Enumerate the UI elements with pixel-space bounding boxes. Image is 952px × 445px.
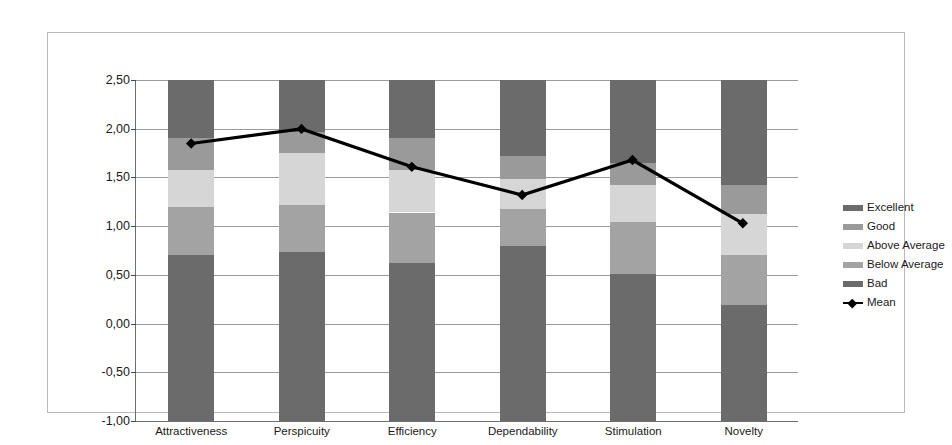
bar-segment-below-average[interactable] <box>389 213 435 264</box>
legend-item-label: Good <box>867 221 895 233</box>
legend-item-excellent[interactable]: Excellent <box>843 199 951 217</box>
legend-swatch-icon <box>843 262 863 268</box>
bar-segment-good[interactable] <box>168 138 214 169</box>
bar-segment-bad[interactable] <box>500 246 546 421</box>
x-axis-tick-label: Dependability <box>468 426 579 438</box>
bar-segment-excellent[interactable] <box>610 80 656 163</box>
bar-column[interactable] <box>468 80 579 421</box>
legend-swatch-icon <box>843 243 863 249</box>
bar-column[interactable] <box>578 80 689 421</box>
bar-segment-below-average[interactable] <box>500 209 546 246</box>
stacked-bar[interactable] <box>500 80 546 421</box>
y-axis-tick-label: 2,00 <box>106 123 130 136</box>
stacked-bar[interactable] <box>279 80 325 421</box>
chart-legend: ExcellentGoodAbove AverageBelow AverageB… <box>843 199 951 313</box>
plot-area: AttractivenessPerspicuityEfficiencyDepen… <box>135 80 798 421</box>
bar-segment-excellent[interactable] <box>279 80 325 132</box>
x-axis-tick-label: Efficiency <box>357 426 468 438</box>
bar-segment-below-average[interactable] <box>279 205 325 253</box>
stacked-bar[interactable] <box>721 80 767 421</box>
stacked-bar[interactable] <box>389 80 435 421</box>
x-axis-tick-label: Attractiveness <box>136 426 247 438</box>
legend-item-label: Mean <box>867 297 896 309</box>
y-axis-tick-label: 1,50 <box>106 171 130 184</box>
legend-item-mean[interactable]: Mean <box>843 294 951 312</box>
bar-segment-above-average[interactable] <box>168 170 214 207</box>
legend-swatch-icon <box>843 281 863 287</box>
legend-swatch-icon <box>843 205 863 211</box>
x-axis-tick-label: Stimulation <box>578 426 689 438</box>
x-axis-tick-label: Perspicuity <box>247 426 358 438</box>
bar-segment-above-average[interactable] <box>500 179 546 208</box>
chart-frame: 2,502,001,501,000,500,00-0,50-1,00 Attra… <box>47 32 905 413</box>
y-axis-tick-label: 2,50 <box>106 74 130 87</box>
bar-segment-excellent[interactable] <box>721 80 767 185</box>
bar-segment-excellent[interactable] <box>500 80 546 156</box>
bar-segment-excellent[interactable] <box>389 80 435 138</box>
legend-item-above-average[interactable]: Above Average <box>843 237 951 255</box>
bar-segment-above-average[interactable] <box>721 214 767 255</box>
y-axis-tick-label: 1,00 <box>106 220 130 233</box>
legend-item-bad[interactable]: Bad <box>843 275 951 293</box>
bar-column[interactable] <box>136 80 247 421</box>
bar-column[interactable] <box>357 80 468 421</box>
bar-column[interactable] <box>689 80 800 421</box>
y-axis-labels: 2,502,001,501,000,500,00-0,50-1,00 <box>88 80 130 421</box>
y-axis-tick-label: -0,50 <box>102 366 131 379</box>
bar-segment-good[interactable] <box>721 185 767 214</box>
bar-segment-good[interactable] <box>389 138 435 169</box>
y-axis-tick-label: -1,00 <box>102 415 131 428</box>
bar-segment-bad[interactable] <box>279 252 325 421</box>
y-axis-tick-label: 0,00 <box>106 318 130 331</box>
bar-segment-below-average[interactable] <box>168 207 214 256</box>
legend-item-below-average[interactable]: Below Average <box>843 256 951 274</box>
legend-item-label: Below Average <box>867 259 944 271</box>
bar-segment-bad[interactable] <box>168 255 214 421</box>
gridline <box>136 421 798 422</box>
bar-segment-excellent[interactable] <box>168 80 214 138</box>
bar-segment-good[interactable] <box>610 163 656 185</box>
bar-segment-bad[interactable] <box>389 263 435 421</box>
legend-swatch-icon <box>843 224 863 230</box>
bar-segment-below-average[interactable] <box>721 255 767 305</box>
bar-segment-above-average[interactable] <box>389 170 435 213</box>
x-axis-tick-label: Novelty <box>689 426 800 438</box>
legend-item-good[interactable]: Good <box>843 218 951 236</box>
bar-segment-bad[interactable] <box>610 274 656 421</box>
legend-item-label: Bad <box>867 278 887 290</box>
bar-segment-below-average[interactable] <box>610 222 656 274</box>
stacked-bar[interactable] <box>168 80 214 421</box>
bar-segment-above-average[interactable] <box>279 153 325 205</box>
y-axis-tick <box>131 421 136 422</box>
stacked-bar[interactable] <box>610 80 656 421</box>
bar-segment-above-average[interactable] <box>610 185 656 222</box>
bar-segment-good[interactable] <box>500 156 546 179</box>
bar-segment-bad[interactable] <box>721 305 767 421</box>
legend-mean-marker-icon <box>843 299 863 308</box>
bar-column[interactable] <box>247 80 358 421</box>
legend-item-label: Above Average <box>867 240 945 252</box>
bar-segment-good[interactable] <box>279 132 325 153</box>
y-axis-tick-label: 0,50 <box>106 269 130 282</box>
legend-item-label: Excellent <box>867 202 914 214</box>
